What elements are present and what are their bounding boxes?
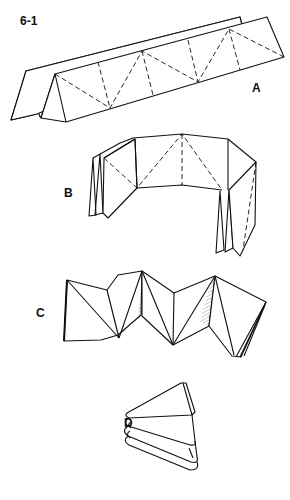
fold-diagram (0, 0, 290, 500)
panel-c-drawing (64, 271, 266, 357)
panel-b-drawing (89, 134, 256, 256)
panel-a-drawing (11, 17, 284, 122)
panel-d-drawing (125, 383, 198, 470)
